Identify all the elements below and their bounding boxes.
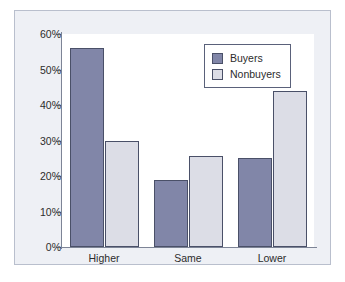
y-axis-line [61,32,62,249]
legend-item-nonbuyers: Nonbuyers [212,66,281,82]
bar-buyers-same [154,180,188,247]
x-axis-label-lower: Lower [230,252,314,264]
bar-group [70,34,139,247]
bar-nonbuyers-lower [273,91,307,247]
legend-label-buyers: Buyers [230,52,263,64]
x-axis-label-higher: Higher [62,252,146,264]
bar-nonbuyers-same [189,156,223,247]
chart-figure: 0%10%20%30%40%50%60% HigherSameLower Buy… [14,10,331,265]
bar-buyers-lower [238,158,272,247]
chart-legend: Buyers Nonbuyers [204,44,291,88]
y-axis-tick-label: 40% [27,99,61,111]
bar-buyers-higher [70,48,104,247]
x-axis-label-same: Same [146,252,230,264]
legend-label-nonbuyers: Nonbuyers [230,68,281,80]
y-axis-tick-label: 0% [27,241,61,253]
y-axis-tick-label: 10% [27,206,61,218]
legend-swatch-icon-nonbuyers [212,69,223,80]
y-axis-tick-label: 50% [27,64,61,76]
x-axis-line [61,247,317,248]
legend-swatch-icon-buyers [212,53,223,64]
y-axis-tick-label: 30% [27,135,61,147]
legend-item-buyers: Buyers [212,50,281,66]
y-axis-tick-label: 20% [27,170,61,182]
y-axis-tick-label: 60% [27,28,61,40]
bar-nonbuyers-higher [105,141,139,248]
